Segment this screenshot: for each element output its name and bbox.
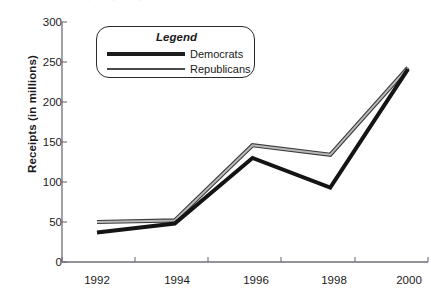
legend-title: Legend (97, 31, 256, 43)
legend-label-democrats: Democrats (185, 48, 243, 60)
x-axis-ticks (62, 257, 428, 262)
legend-label-republicans: Republicans (185, 63, 251, 75)
legend-swatch-democrats (107, 52, 185, 55)
y-axis-ticks (62, 22, 67, 262)
legend-item-republicans: Republicans (107, 62, 249, 76)
chart-figure: Receipts by Party Committees Receipts (i… (0, 0, 431, 302)
series-democrats (97, 69, 408, 232)
series-republicans (97, 68, 408, 222)
legend-item-democrats: Democrats (107, 47, 249, 61)
legend: Legend Democrats Republicans (96, 26, 255, 78)
legend-swatch-republicans (107, 68, 185, 71)
